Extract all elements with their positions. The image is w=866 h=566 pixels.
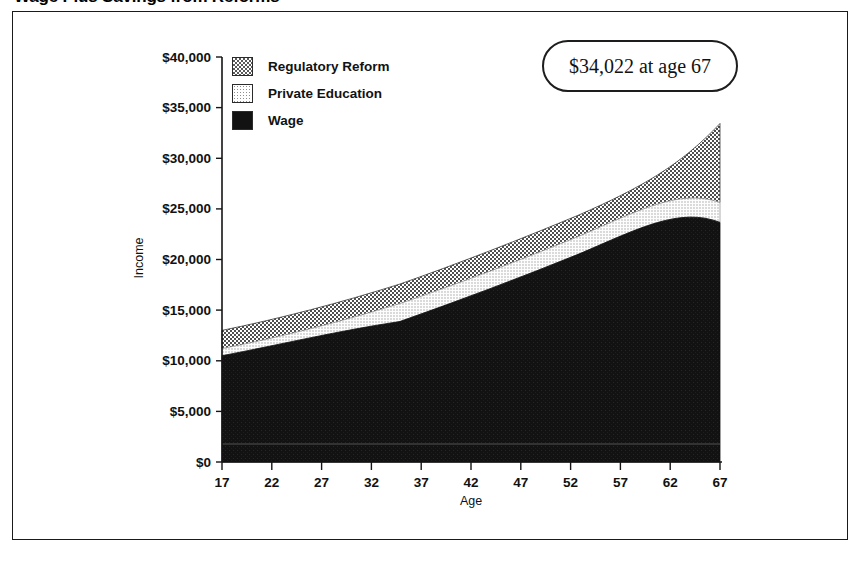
value-callout: $34,022 at age 67 [542,40,738,92]
callout-text: $34,022 at age 67 [569,55,711,78]
figure-page: Wage Plus Savings from Reforms [0,0,866,566]
legend-item-private-education: Private Education [232,81,462,105]
legend-label: Wage [268,113,304,128]
figure-title: Wage Plus Savings from Reforms [14,0,614,7]
regulatory-reform-swatch-icon [232,57,253,76]
legend-label: Private Education [268,86,382,101]
legend-item-regulatory-reform: Regulatory Reform [232,54,462,78]
wage-swatch-icon [232,111,253,130]
legend-item-wage: Wage [232,108,462,132]
legend-label: Regulatory Reform [268,59,390,74]
chart-legend: Regulatory Reform Private Education Wage [232,54,462,135]
private-education-swatch-icon [232,84,253,103]
